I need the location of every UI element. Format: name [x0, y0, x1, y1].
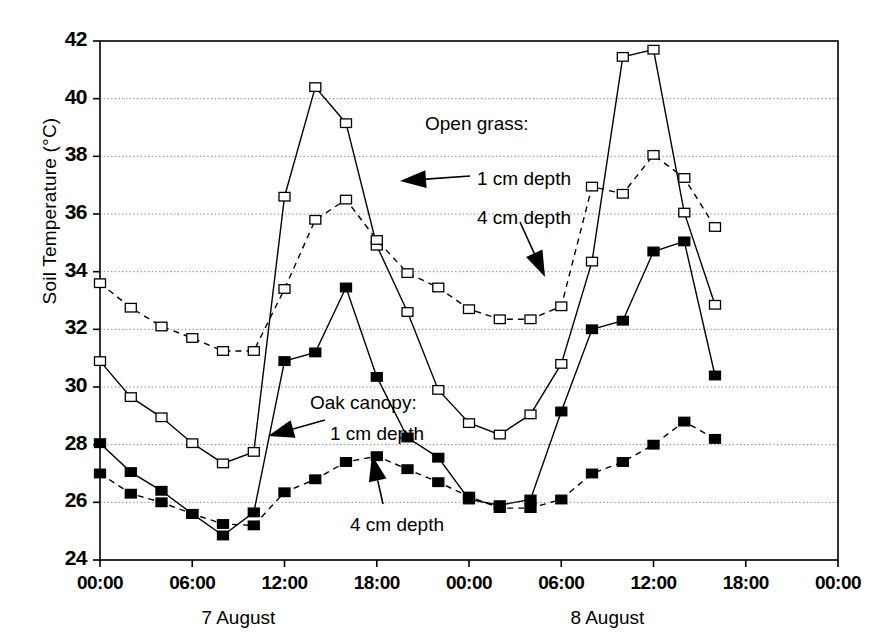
chart-figure: Soil Temperature (°C) 242628303234363840… [0, 0, 887, 644]
annotation-oak-canopy-1cm: 1 cm depth [330, 423, 424, 445]
marker-open-square [679, 174, 690, 183]
y-tick-label: 40 [41, 85, 87, 109]
marker-filled-square [433, 478, 444, 487]
x-tick-label: 06:00 [516, 572, 606, 594]
arrow-open-grass-1cm-shaft [426, 176, 470, 179]
x-tick-label: 12:00 [240, 572, 330, 594]
marker-filled-square [156, 487, 167, 496]
y-tick-label: 38 [41, 142, 87, 166]
marker-open-square [341, 195, 352, 204]
marker-filled-square [95, 469, 106, 478]
marker-open-square [402, 308, 413, 317]
marker-open-square [156, 413, 167, 422]
arrow-open-grass-4cm-head [526, 250, 545, 277]
marker-filled-square [341, 283, 352, 292]
marker-filled-square [310, 348, 321, 357]
marker-filled-square [556, 407, 567, 416]
marker-open-square [95, 357, 106, 366]
marker-filled-square [710, 435, 721, 444]
marker-filled-square [279, 488, 290, 497]
marker-open-square [494, 430, 505, 439]
arrow-open-grass-1cm-head [400, 170, 427, 188]
x-tick-label: 18:00 [701, 572, 791, 594]
marker-open-square [95, 279, 106, 288]
marker-open-square [648, 151, 659, 160]
marker-open-square [310, 216, 321, 225]
marker-filled-square [248, 508, 259, 517]
marker-open-square [433, 283, 444, 292]
marker-open-square [710, 301, 721, 310]
y-tick-label: 30 [41, 373, 87, 397]
marker-open-square [218, 347, 229, 356]
annotation-oak-canopy-heading: Oak canopy: [310, 392, 417, 414]
y-tick-label: 42 [41, 27, 87, 51]
marker-open-square [464, 419, 475, 428]
marker-open-square [310, 83, 321, 92]
marker-filled-square [464, 492, 475, 501]
marker-open-square [587, 257, 598, 266]
marker-filled-square [710, 371, 721, 380]
y-tick-label: 32 [41, 315, 87, 339]
marker-filled-square [587, 469, 598, 478]
marker-open-square [556, 360, 567, 369]
x-tick-label: 00:00 [424, 572, 514, 594]
marker-open-square [125, 303, 136, 312]
marker-filled-square [248, 521, 259, 530]
arrow-oak-canopy-1cm-shaft [293, 420, 325, 429]
marker-filled-square [279, 357, 290, 366]
chart-canvas [0, 0, 887, 644]
marker-filled-square [617, 458, 628, 467]
marker-filled-square [587, 325, 598, 334]
x-tick-label: 12:00 [609, 572, 699, 594]
marker-filled-square [433, 453, 444, 462]
marker-open-square [587, 182, 598, 191]
marker-open-square [494, 315, 505, 324]
marker-filled-square [187, 510, 198, 519]
x-tick-label: 00:00 [55, 572, 145, 594]
y-tick-label: 34 [41, 258, 87, 282]
marker-open-square [279, 192, 290, 201]
marker-filled-square [218, 520, 229, 529]
marker-open-square [341, 119, 352, 128]
marker-open-square [218, 459, 229, 468]
marker-open-square [617, 190, 628, 199]
marker-open-square [371, 236, 382, 245]
day-label: 8 August [537, 607, 677, 629]
marker-filled-square [95, 439, 106, 448]
marker-filled-square [125, 468, 136, 477]
marker-open-square [648, 45, 659, 54]
marker-open-square [156, 322, 167, 331]
marker-filled-square [341, 458, 352, 467]
marker-filled-square [556, 495, 567, 504]
marker-filled-square [402, 465, 413, 474]
arrow-oak-canopy-4cm-shaft [378, 480, 383, 504]
day-label: 7 August [168, 607, 308, 629]
annotation-open-grass-heading: Open grass: [425, 113, 529, 135]
marker-filled-square [679, 417, 690, 426]
annotation-open-grass-4cm: 4 cm depth [477, 207, 571, 229]
marker-open-square [710, 223, 721, 232]
marker-filled-square [617, 316, 628, 325]
grid-lines [100, 99, 838, 503]
marker-filled-square [648, 247, 659, 256]
marker-filled-square [310, 475, 321, 484]
marker-open-square [617, 53, 628, 62]
marker-filled-square [525, 504, 536, 513]
marker-open-square [248, 347, 259, 356]
y-tick-label: 36 [41, 200, 87, 224]
marker-open-square [464, 305, 475, 314]
marker-open-square [187, 334, 198, 343]
marker-open-square [125, 393, 136, 402]
marker-open-square [679, 208, 690, 217]
marker-filled-square [125, 489, 136, 498]
y-tick-label: 24 [41, 546, 87, 570]
marker-filled-square [648, 440, 659, 449]
y-tick-label: 28 [41, 431, 87, 455]
series-2 [95, 237, 721, 540]
annotation-oak-canopy-4cm: 4 cm depth [350, 514, 444, 536]
marker-open-square [433, 386, 444, 395]
marker-open-square [525, 315, 536, 324]
series-line [100, 241, 715, 535]
marker-filled-square [371, 373, 382, 382]
marker-filled-square [494, 504, 505, 513]
